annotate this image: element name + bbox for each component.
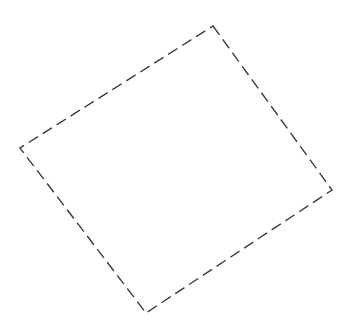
canvas-background [0,0,350,326]
drawing-canvas [0,0,350,326]
shape-svg [0,0,350,326]
